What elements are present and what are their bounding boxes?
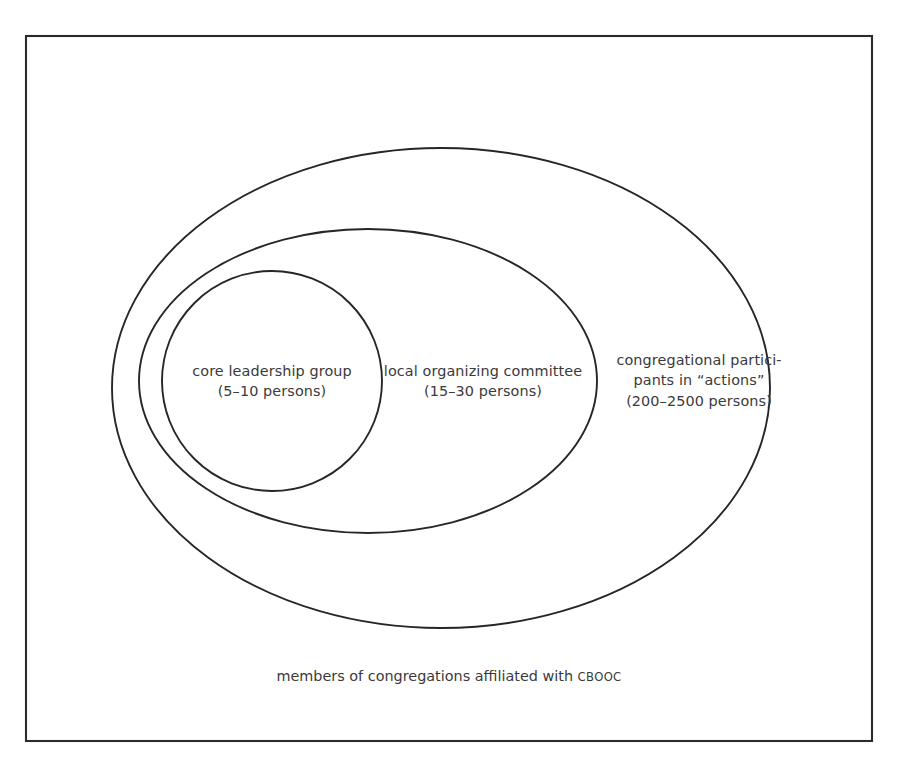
- diagram-root: core leadership group (5–10 persons) loc…: [0, 0, 898, 773]
- caption-acronym: CBOOC: [578, 670, 622, 684]
- label-participants-line-3: (200–2500 persons): [616, 391, 781, 411]
- label-congregational-participants: congregational partici- pants in “action…: [616, 350, 781, 411]
- caption-text: members of congregations affiliated with: [276, 668, 577, 684]
- label-participants-line-1: congregational partici-: [616, 350, 781, 370]
- label-local-organizing-committee: local organizing committee (15–30 person…: [384, 361, 582, 402]
- label-core-line-1: core leadership group: [192, 361, 352, 381]
- label-core-line-2: (5–10 persons): [192, 381, 352, 401]
- label-committee-line-2: (15–30 persons): [384, 381, 582, 401]
- label-committee-line-1: local organizing committee: [384, 361, 582, 381]
- label-participants-line-2: pants in “actions”: [616, 371, 781, 391]
- diagram-caption: members of congregations affiliated with…: [276, 666, 621, 686]
- label-core-leadership-group: core leadership group (5–10 persons): [192, 361, 352, 402]
